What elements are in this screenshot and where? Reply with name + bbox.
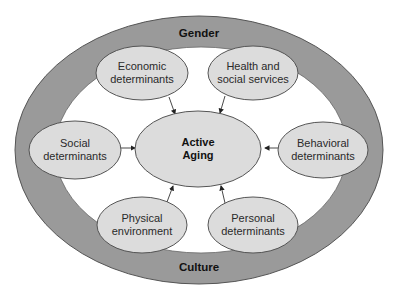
label-behavioral: Behavioral determinants	[291, 137, 355, 163]
label-line: environment	[112, 225, 173, 238]
label-personal: Personal determinants	[221, 212, 285, 238]
label-physical: Physical environment	[112, 212, 173, 238]
label-line: Health and	[217, 60, 289, 73]
label-line: Social	[43, 137, 107, 150]
ring-label-culture: Culture	[179, 261, 219, 273]
label-line: Physical	[112, 212, 173, 225]
label-line: determinants	[43, 150, 107, 163]
label-economic: Economic determinants	[110, 60, 174, 86]
label-line: determinants	[291, 150, 355, 163]
label-line: determinants	[221, 225, 285, 238]
ring-label-gender: Gender	[179, 27, 219, 39]
center-label: Active Aging	[181, 136, 214, 162]
center-line1: Active	[181, 136, 214, 149]
label-line: Economic	[110, 60, 174, 73]
label-line: Behavioral	[291, 137, 355, 150]
label-line: social services	[217, 73, 289, 86]
label-line: Personal	[221, 212, 285, 225]
label-line: determinants	[110, 73, 174, 86]
label-health: Health and social services	[217, 60, 289, 86]
center-line2: Aging	[181, 149, 214, 162]
label-social: Social determinants	[43, 137, 107, 163]
